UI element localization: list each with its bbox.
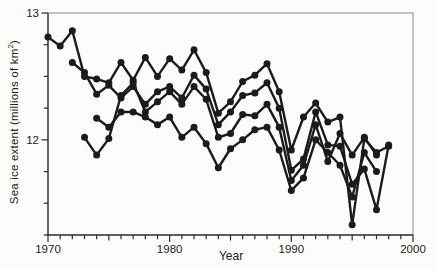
- data-point-series-3: [105, 135, 112, 142]
- data-point-series-2: [191, 72, 198, 79]
- data-point-series-1: [57, 42, 64, 49]
- data-point-series-3: [215, 134, 222, 141]
- data-point-series-3: [373, 152, 380, 159]
- data-point-series-3: [81, 134, 88, 141]
- data-point-series-3: [227, 130, 234, 137]
- data-point-series-3: [191, 83, 198, 90]
- x-tick-label: 1990: [279, 243, 305, 255]
- data-point-series-4: [264, 124, 271, 131]
- data-point-series-2: [264, 79, 271, 86]
- data-point-series-4: [142, 114, 149, 121]
- data-point-series-4: [300, 174, 307, 181]
- data-point-series-1: [337, 114, 344, 121]
- data-point-series-4: [154, 121, 161, 128]
- data-point-series-3: [276, 124, 283, 131]
- data-point-series-4: [105, 124, 112, 131]
- data-point-series-2: [373, 206, 380, 213]
- data-point-series-1: [264, 60, 271, 67]
- data-point-series-1: [191, 46, 198, 53]
- data-point-series-2: [239, 92, 246, 99]
- data-point-series-4: [178, 134, 185, 141]
- data-point-series-1: [178, 67, 185, 74]
- y-tick-label: 12: [26, 134, 39, 146]
- data-point-series-1: [227, 98, 234, 105]
- data-point-series-2: [324, 141, 331, 148]
- data-point-series-2: [93, 91, 100, 98]
- data-point-series-3: [264, 101, 271, 108]
- data-point-series-3: [154, 98, 161, 105]
- data-point-series-4: [324, 149, 331, 156]
- data-point-series-4: [118, 108, 125, 115]
- data-point-series-2: [105, 82, 112, 89]
- data-point-series-3: [349, 152, 356, 159]
- data-point-series-2: [81, 69, 88, 76]
- data-point-series-1: [142, 54, 149, 61]
- data-point-series-1: [312, 100, 319, 107]
- sea-ice-extent-figure: Sea ice extent (millions of km2) 1312197…: [0, 0, 437, 270]
- data-point-series-4: [227, 145, 234, 152]
- x-axis-title: Year: [219, 249, 243, 263]
- x-tick-label: 2000: [400, 243, 426, 255]
- data-point-series-3: [178, 101, 185, 108]
- data-point-series-2: [154, 88, 161, 95]
- data-point-series-1: [349, 221, 356, 228]
- data-point-series-4: [337, 162, 344, 169]
- data-point-series-2: [312, 108, 319, 115]
- data-point-series-1: [324, 119, 331, 126]
- data-point-series-4: [251, 126, 258, 133]
- data-point-series-1: [300, 114, 307, 121]
- data-point-series-3: [361, 134, 368, 141]
- data-point-series-4: [166, 114, 173, 121]
- data-point-series-1: [276, 88, 283, 95]
- data-point-series-1: [251, 72, 258, 79]
- data-point-series-1: [239, 78, 246, 85]
- data-point-series-1: [45, 34, 52, 41]
- data-point-series-4: [191, 124, 198, 131]
- data-point-series-2: [203, 86, 210, 93]
- data-point-series-1: [154, 73, 161, 80]
- data-point-series-3: [239, 111, 246, 118]
- data-point-series-3: [312, 121, 319, 128]
- data-point-series-3: [118, 92, 125, 99]
- data-point-series-2: [361, 166, 368, 173]
- data-point-series-3: [251, 112, 258, 119]
- plot-area: 13121970198019902000: [0, 0, 437, 270]
- x-tick-label: 1980: [157, 243, 183, 255]
- data-point-series-3: [130, 79, 137, 86]
- data-point-series-3: [203, 96, 210, 103]
- data-point-series-4: [239, 136, 246, 143]
- data-point-series-3: [166, 88, 173, 95]
- x-tick-label: 1970: [35, 243, 61, 255]
- data-point-series-2: [69, 59, 76, 66]
- data-point-series-4: [276, 147, 283, 154]
- data-point-series-4: [203, 140, 210, 147]
- data-point-series-1: [203, 69, 210, 76]
- data-point-series-2: [276, 105, 283, 112]
- data-point-series-4: [288, 187, 295, 194]
- data-point-series-1: [93, 75, 100, 82]
- data-point-series-4: [93, 115, 100, 122]
- data-point-series-4: [312, 136, 319, 143]
- data-point-series-1: [69, 27, 76, 34]
- data-point-series-4: [361, 149, 368, 156]
- y-tick-label: 13: [26, 7, 39, 19]
- data-point-series-1: [166, 55, 173, 62]
- data-point-series-4: [349, 193, 356, 200]
- data-point-series-2: [385, 141, 392, 148]
- data-point-series-3: [93, 152, 100, 159]
- data-point-series-2: [227, 108, 234, 115]
- data-point-series-3: [337, 130, 344, 137]
- data-point-series-1: [118, 59, 125, 66]
- data-point-series-4: [373, 168, 380, 175]
- data-point-series-2: [337, 143, 344, 150]
- data-point-series-3: [324, 158, 331, 165]
- data-point-series-2: [251, 89, 258, 96]
- data-point-series-4: [130, 108, 137, 115]
- data-point-series-4: [215, 164, 222, 171]
